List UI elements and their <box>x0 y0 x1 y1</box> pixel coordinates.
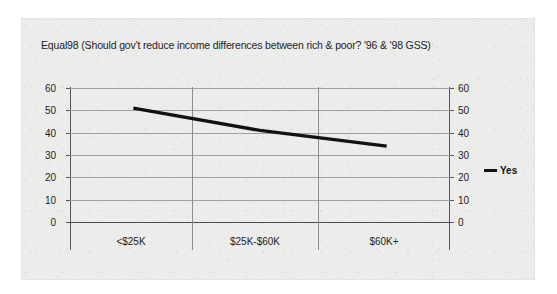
y-tick-right-40: 40 <box>458 129 480 139</box>
legend-swatch-yes <box>484 169 497 172</box>
series-yes-line <box>70 88 450 222</box>
y-tickmark-left-10 <box>66 200 70 201</box>
y-tickmark-right-20 <box>450 177 454 178</box>
plot-area <box>70 88 450 222</box>
x-category-label-2: $25K-$60K <box>192 236 318 247</box>
y-tickmark-left-20 <box>66 177 70 178</box>
y-tick-left-40: 40 <box>34 129 56 139</box>
chart-legend: Yes <box>484 165 517 176</box>
y-tickmark-left-40 <box>66 133 70 134</box>
legend-label-yes: Yes <box>500 165 517 176</box>
y-tickmark-left-30 <box>66 155 70 156</box>
y-tickmark-right-0 <box>450 222 454 223</box>
y-tick-left-50: 50 <box>34 106 56 116</box>
chart-title: Equal98 (Should gov't reduce income diff… <box>41 39 431 51</box>
x-category-label-3: $60K+ <box>318 236 450 247</box>
y-tickmark-right-40 <box>450 133 454 134</box>
x-category-label-1: <$25K <box>70 236 192 247</box>
y-tickmark-right-10 <box>450 200 454 201</box>
y-tick-right-20: 20 <box>458 173 480 183</box>
y-tick-left-20: 20 <box>34 173 56 183</box>
y-tickmark-left-0 <box>66 222 70 223</box>
y-tick-left-60: 60 <box>34 84 56 94</box>
y-tick-right-30: 30 <box>458 151 480 161</box>
y-tickmark-left-50 <box>66 110 70 111</box>
y-tickmark-right-60 <box>450 88 454 89</box>
y-tick-left-30: 30 <box>34 151 56 161</box>
y-tickmark-right-30 <box>450 155 454 156</box>
x-axis-line <box>70 222 450 223</box>
y-tickmark-right-50 <box>450 110 454 111</box>
y-tick-right-60: 60 <box>458 84 480 94</box>
y-tick-right-0: 0 <box>458 218 480 228</box>
y-tick-right-50: 50 <box>458 106 480 116</box>
y-tickmark-left-60 <box>66 88 70 89</box>
y-tick-left-10: 10 <box>34 196 56 206</box>
y-tick-left-0: 0 <box>34 218 56 228</box>
y-tick-right-10: 10 <box>458 196 480 206</box>
